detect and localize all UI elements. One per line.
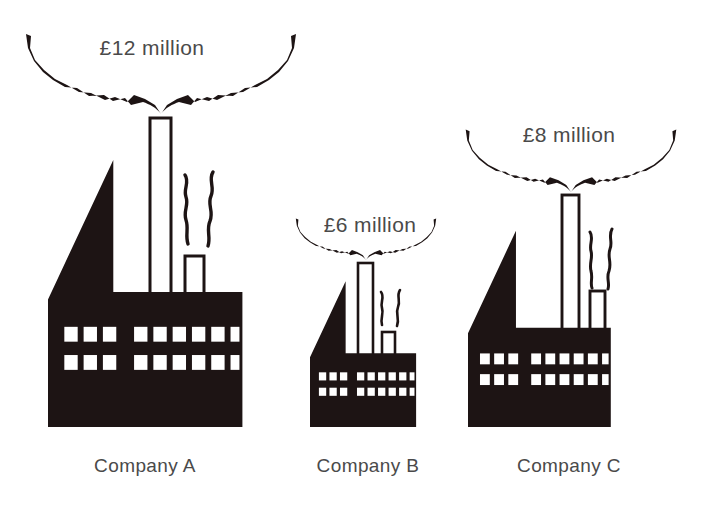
category-label-company-b: Company B <box>317 455 420 476</box>
pictogram-chart: £12 million Company A £6 million Company… <box>0 0 704 507</box>
value-label-company-a: £12 million <box>100 36 205 59</box>
category-label-company-c: Company C <box>517 455 621 476</box>
value-label-company-b: £6 million <box>324 213 417 236</box>
category-label-company-a: Company A <box>94 455 196 476</box>
value-label-company-c: £8 million <box>523 123 616 146</box>
chart-canvas: £12 million Company A £6 million Company… <box>0 0 704 507</box>
